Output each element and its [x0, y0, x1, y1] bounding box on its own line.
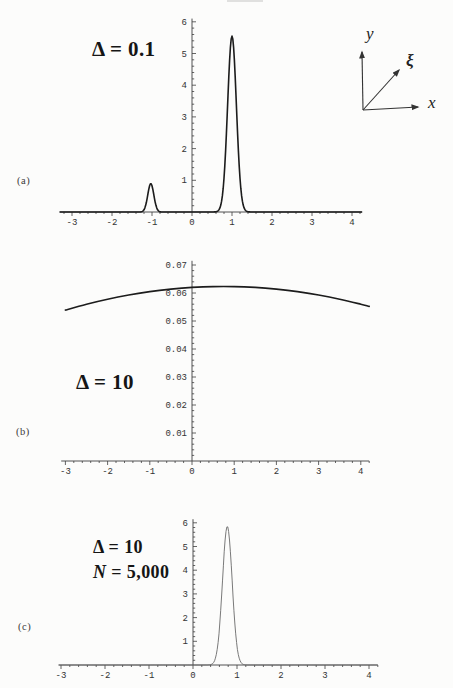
inset-xi-label: ξ: [406, 52, 414, 69]
y-tick-label: 3: [183, 590, 188, 600]
x-tick-label: -1: [147, 218, 158, 228]
y-tick-label: 6: [183, 519, 188, 529]
y-tick-label: 0.05: [165, 317, 187, 327]
y-tick-label: 2: [183, 614, 188, 624]
x-tick-label: -3: [56, 671, 67, 681]
y-tick-label: 1: [182, 176, 187, 186]
panel-label-a: (a): [17, 175, 30, 186]
x-tick-label: 1: [229, 218, 234, 228]
x-tick-label: 0: [189, 218, 194, 228]
x-tick-label: 4: [358, 467, 363, 477]
delta-annotation-a-text: Δ = 0.1: [92, 37, 156, 61]
x-tick-label: 1: [231, 467, 236, 477]
x-tick-label: 2: [269, 218, 274, 228]
x-tick-label: 3: [309, 218, 314, 228]
chart-a: -3-2-101234123456: [0, 0, 453, 688]
panel-label-b: (b): [16, 426, 30, 437]
x-tick-label: -2: [107, 218, 118, 228]
y-tick-label: 4: [182, 81, 187, 91]
scan-artifact: [227, 0, 263, 2]
panel-label-c: (c): [18, 621, 31, 632]
x-tick-label: 3: [316, 467, 321, 477]
y-tick-label: 0.03: [165, 373, 187, 383]
y-tick-label: 3: [182, 113, 187, 123]
y-tick-label: 0.07: [165, 261, 187, 271]
y-tick-label: 5: [182, 50, 187, 60]
y-tick-label: 1: [183, 637, 188, 647]
chart-c: -3-2-101234123456: [0, 0, 453, 688]
inset-xi-axis-arrow: [363, 70, 399, 110]
inset-y-axis-arrow: [362, 52, 363, 110]
delta-annotation-b: Δ = 10: [76, 371, 134, 394]
y-tick-label: 6: [182, 18, 187, 28]
y-tick-label: 2: [182, 145, 187, 155]
y-tick-label: 0.01: [165, 429, 187, 439]
x-tick-label: 4: [366, 671, 371, 681]
y-tick-label: 4: [183, 566, 188, 576]
y-tick-label: 0.02: [165, 401, 187, 411]
x-tick-label: 4: [349, 218, 354, 228]
y-tick-label: 5: [183, 543, 188, 553]
inset-y-label: y: [366, 25, 374, 42]
inset-x-axis-arrow: [363, 107, 418, 110]
figure-page: -3-2-101234123456 -3-2-1012340.010.020.0…: [0, 0, 453, 688]
n-annotation-value: = 5,000: [106, 562, 169, 582]
inset-x-label: x: [428, 94, 436, 111]
n-annotation-c: N = 5,000: [93, 563, 169, 583]
n-annotation-variable: N: [93, 562, 106, 582]
y-tick-label: 0.06: [165, 289, 187, 299]
delta-annotation-c-text: Δ = 10: [93, 537, 143, 557]
x-tick-label: -1: [144, 467, 155, 477]
y-tick-label: 0.04: [165, 345, 187, 355]
delta-annotation-a: Δ = 0.1: [92, 38, 156, 61]
x-tick-label: 3: [322, 671, 327, 681]
delta-annotation-c: Δ = 10: [93, 538, 143, 558]
x-tick-label: 2: [274, 467, 279, 477]
x-tick-label: 0: [190, 671, 195, 681]
x-tick-label: -2: [102, 467, 113, 477]
x-tick-label: -3: [60, 467, 71, 477]
x-tick-label: -2: [100, 671, 111, 681]
x-tick-label: -3: [67, 218, 78, 228]
x-tick-label: 0: [189, 467, 194, 477]
density-curve: [60, 36, 362, 212]
x-tick-label: -1: [144, 671, 155, 681]
x-tick-label: 1: [234, 671, 239, 681]
coordinate-axes-inset: [0, 0, 453, 688]
chart-b: -3-2-1012340.010.020.030.040.050.060.07: [0, 0, 453, 688]
x-tick-label: 2: [278, 671, 283, 681]
delta-annotation-b-text: Δ = 10: [76, 370, 134, 394]
density-curve: [65, 286, 369, 310]
